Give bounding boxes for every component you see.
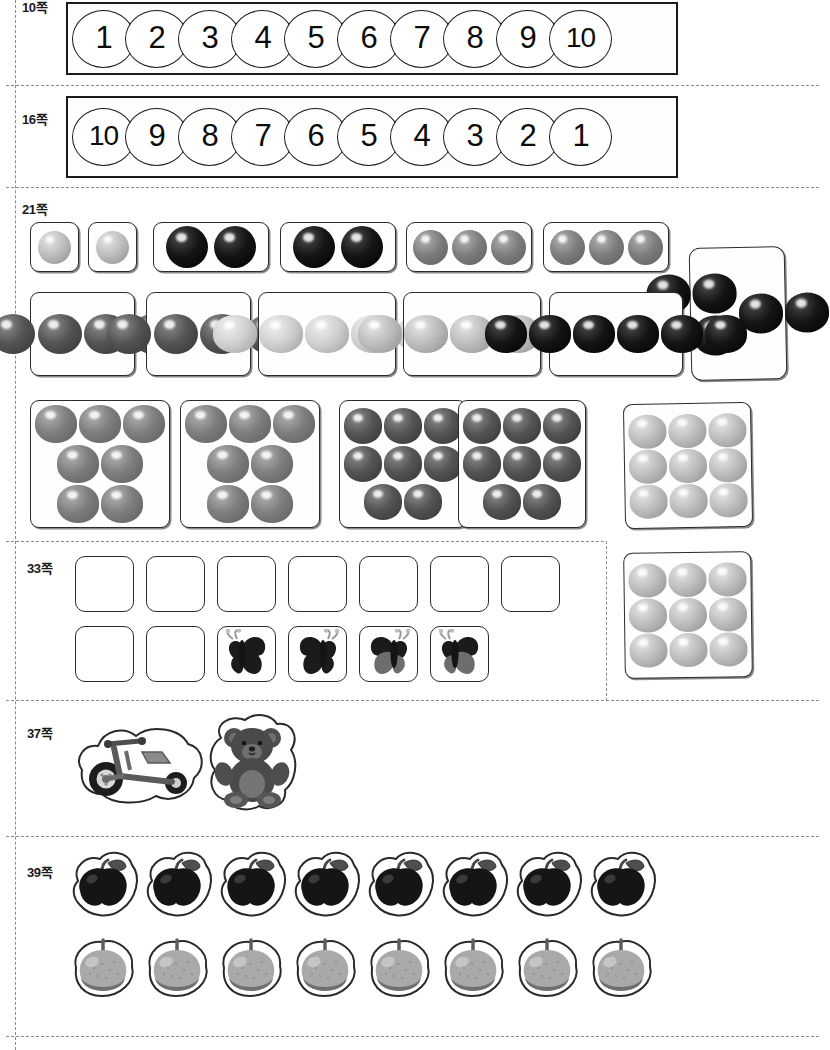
- counting-dot: [166, 226, 208, 268]
- counting-dot: [384, 446, 422, 482]
- dot-row: [0, 314, 82, 354]
- counting-dot: [628, 414, 667, 449]
- dot-card-undefined[interactable]: [549, 292, 683, 376]
- counting-dot: [629, 449, 668, 484]
- dot-card-undefined[interactable]: [689, 246, 788, 381]
- pear-sticker[interactable]: [438, 934, 510, 1000]
- dot-card-undefined[interactable]: [88, 222, 137, 272]
- blank-card[interactable]: [359, 556, 418, 612]
- blank-card[interactable]: [501, 556, 560, 612]
- blank-card[interactable]: [217, 556, 276, 612]
- counting-dot: [229, 405, 271, 443]
- pear-sticker[interactable]: [216, 934, 288, 1000]
- dot-row: [628, 562, 746, 598]
- dot-card-undefined[interactable]: [623, 402, 753, 529]
- counting-dot: [617, 315, 659, 353]
- number-oval-label: 10: [89, 120, 118, 152]
- number-oval-label: 9: [148, 118, 164, 154]
- butterfly-icon: [432, 629, 488, 682]
- counting-dot: [485, 315, 527, 353]
- apple-sticker[interactable]: [512, 851, 584, 917]
- dot-grid: [407, 223, 531, 271]
- dot-card-undefined[interactable]: [280, 222, 396, 272]
- cut-line-p21-p33: [6, 541, 604, 542]
- cut-line-p37-p39: [6, 836, 819, 837]
- counting-dot: [709, 447, 748, 482]
- dot-row: [185, 485, 315, 523]
- number-oval-label: 4: [254, 20, 270, 56]
- pear-sticker[interactable]: [290, 934, 362, 1000]
- teddy-bear-sticker[interactable]: [205, 712, 301, 814]
- apple-sticker[interactable]: [438, 851, 510, 917]
- counting-dot: [669, 448, 708, 483]
- blank-card[interactable]: [146, 556, 205, 612]
- cut-line-p33-p37: [6, 700, 819, 701]
- butterfly-card[interactable]: [430, 626, 489, 682]
- dot-card-undefined[interactable]: [339, 400, 467, 528]
- counting-dot: [589, 230, 624, 265]
- pear-sticker[interactable]: [68, 934, 140, 1000]
- apple-sticker[interactable]: [586, 851, 658, 917]
- apple-sticker[interactable]: [290, 851, 362, 917]
- number-oval-1[interactable]: 1: [549, 108, 612, 166]
- apple-sticker[interactable]: [216, 851, 288, 917]
- counting-dot: [709, 632, 747, 667]
- dot-card-undefined[interactable]: [543, 222, 669, 272]
- pear-sticker[interactable]: [586, 934, 658, 1000]
- number-oval-label: 6: [360, 20, 376, 56]
- page-label-p16: 16쪽: [22, 109, 47, 128]
- number-oval-10[interactable]: 10: [549, 10, 612, 68]
- pear-sticker[interactable]: [512, 934, 584, 1000]
- blank-card[interactable]: [75, 626, 134, 682]
- dot-grid: [31, 223, 78, 271]
- counting-dot: [543, 408, 581, 444]
- counting-dot: [573, 315, 615, 353]
- apple-sticker[interactable]: [364, 851, 436, 917]
- dot-row: [629, 597, 747, 633]
- apple-sticker[interactable]: [142, 851, 214, 917]
- dot-row: [550, 230, 663, 265]
- counting-dot: [96, 231, 129, 264]
- counting-dot: [207, 445, 249, 483]
- dot-card-undefined[interactable]: [406, 222, 532, 272]
- dot-row: [185, 405, 315, 443]
- number-oval-row-descending: 10987654321: [68, 98, 676, 176]
- counting-dot: [503, 408, 541, 444]
- dot-card-undefined[interactable]: [30, 400, 170, 528]
- dot-row: [344, 484, 462, 520]
- apple-sticker[interactable]: [68, 851, 140, 917]
- butterfly-card[interactable]: [288, 626, 347, 682]
- blank-card[interactable]: [430, 556, 489, 612]
- butterfly-card[interactable]: [217, 626, 276, 682]
- counting-dot: [785, 292, 830, 333]
- butterfly-card[interactable]: [359, 626, 418, 682]
- page-label-p37: 37쪽: [27, 723, 52, 742]
- dot-row: [629, 482, 748, 518]
- counting-dot: [364, 484, 402, 520]
- dot-card-undefined[interactable]: [30, 222, 79, 272]
- counting-dot: [543, 446, 581, 482]
- dot-card-undefined[interactable]: [180, 400, 320, 528]
- dot-card-undefined[interactable]: [458, 400, 586, 528]
- butterfly-icon: [219, 629, 275, 682]
- tricycle-sticker[interactable]: [68, 718, 208, 808]
- blank-card[interactable]: [288, 556, 347, 612]
- counting-dot: [35, 405, 77, 443]
- dot-card-undefined[interactable]: [623, 551, 753, 679]
- number-oval-label: 4: [413, 118, 429, 154]
- dot-card-undefined[interactable]: [153, 222, 269, 272]
- counting-dot: [107, 314, 151, 354]
- counting-dot: [503, 446, 541, 482]
- dot-row: [185, 445, 315, 483]
- number-oval-label: 3: [466, 118, 482, 154]
- counting-dot: [629, 633, 667, 668]
- pear-sticker[interactable]: [364, 934, 436, 1000]
- blank-card[interactable]: [146, 626, 205, 682]
- page-label-p10: 10쪽: [22, 0, 47, 16]
- counting-dot: [293, 226, 335, 268]
- pear-sticker[interactable]: [142, 934, 214, 1000]
- number-oval-label: 9: [519, 20, 535, 56]
- blank-card[interactable]: [75, 556, 134, 612]
- butterfly-icon: [290, 629, 346, 682]
- counting-dot: [669, 598, 707, 633]
